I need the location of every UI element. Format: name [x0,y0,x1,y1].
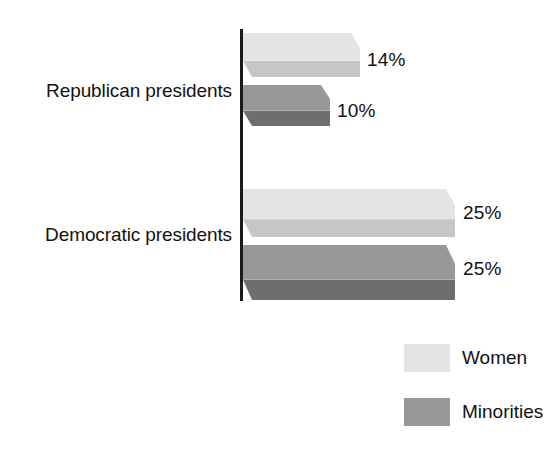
legend-label-minorities: Minorities [462,401,543,423]
category-label-democratic-presidents: Democratic presidents [45,224,232,246]
bar-republican-women [243,33,360,77]
value-label-republican-minorities: 10% [337,100,376,122]
bar-shadow-face [243,111,330,126]
bar-top-face [243,245,455,280]
bar-shadow-face [243,280,455,300]
bar-republican-minorities [243,85,330,126]
value-label-democratic-women: 25% [463,202,502,224]
legend-label-women: Women [462,347,527,369]
category-label-republican-presidents: Republican presidents [46,80,232,102]
value-label-republican-women: 14% [367,49,406,71]
bar-top-face [243,85,330,111]
bar-top-face [243,33,360,61]
bar-shadow-face [243,219,455,237]
bar-chart: Republican presidents Democratic preside… [0,0,549,455]
legend-swatch-minorities [404,398,450,426]
legend-swatch-women [404,344,450,372]
bar-top-face [243,189,455,219]
bar-democratic-women [243,189,455,237]
bar-shadow-face [243,61,360,77]
bar-democratic-minorities [243,245,455,300]
value-label-democratic-minorities: 25% [463,258,502,280]
